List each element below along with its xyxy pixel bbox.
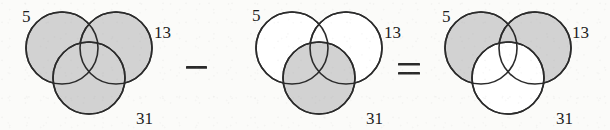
diagram-3-label-set-13: 13 [572, 23, 589, 42]
diagram-2: 5 13 31 [252, 6, 401, 128]
diagram-2-label-set-13: 13 [384, 23, 401, 42]
minus-operator [186, 66, 207, 69]
diagram-1: 5 13 31 [22, 7, 171, 128]
diagram-3-label-set-31: 31 [556, 109, 573, 128]
diagram-1-label-set-31: 31 [136, 109, 153, 128]
diagram-3-label-set-5: 5 [442, 7, 451, 26]
diagram-1-label-set-13: 13 [154, 23, 171, 42]
venn-equation-canvas: 5 13 31 5 13 31 [0, 0, 610, 130]
minus-operator-bar [186, 66, 207, 69]
diagram-2-label-set-31: 31 [366, 109, 383, 128]
venn-equation-figure: 5 13 31 5 13 31 [0, 0, 610, 130]
equals-operator-bar-top [398, 63, 420, 66]
equals-operator [398, 63, 420, 75]
equals-operator-bar-bottom [398, 72, 420, 75]
diagram-2-label-set-5: 5 [252, 6, 261, 25]
diagram-3: 5 13 31 [442, 7, 589, 128]
diagram-1-label-set-5: 5 [22, 7, 31, 26]
